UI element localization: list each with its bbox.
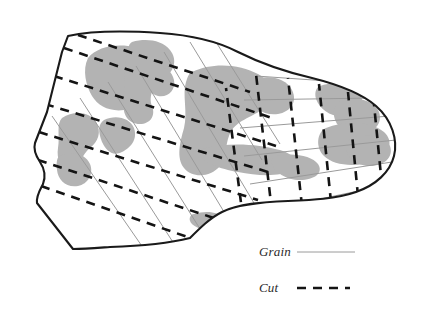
hide-cutting-diagram: GrainCut (0, 0, 440, 318)
legend-label-grain: Grain (259, 244, 291, 259)
legend-label-cut: Cut (259, 280, 279, 295)
hide-diagram-canvas: GrainCut (0, 0, 440, 318)
